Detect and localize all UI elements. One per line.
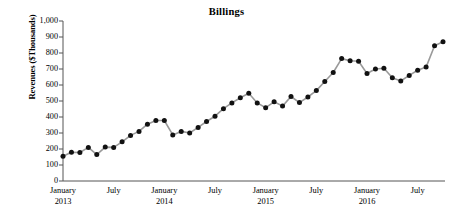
data-point (398, 79, 403, 84)
data-point (381, 66, 386, 71)
data-point (213, 114, 218, 119)
x-axis-tick-label: July (388, 186, 448, 197)
x-axis-tick-year: 2015 (236, 197, 296, 208)
billings-line (63, 42, 443, 156)
data-point (187, 131, 192, 136)
data-point (289, 94, 294, 99)
data-point (390, 75, 395, 80)
data-point (153, 118, 158, 123)
data-point (246, 91, 251, 96)
data-point (61, 154, 66, 159)
data-point (120, 139, 125, 144)
x-axis-tick-year: 2013 (33, 197, 93, 208)
data-point (204, 119, 209, 124)
data-point (69, 150, 74, 155)
data-point (103, 145, 108, 150)
data-point (424, 65, 429, 70)
data-point (229, 100, 234, 105)
data-point (196, 125, 201, 130)
data-point (272, 99, 277, 104)
data-point (221, 106, 226, 111)
data-point (179, 129, 184, 134)
data-point (145, 122, 150, 127)
series-line-billings (63, 42, 443, 156)
data-point (263, 105, 268, 110)
data-point (415, 68, 420, 73)
data-point (331, 70, 336, 75)
data-point (238, 95, 243, 100)
data-point (365, 71, 370, 76)
data-point (348, 58, 353, 63)
data-point (356, 59, 361, 64)
data-point (280, 104, 285, 109)
data-point (86, 145, 91, 150)
data-point (407, 73, 412, 78)
data-point (322, 79, 327, 84)
data-point (162, 118, 167, 123)
data-point (111, 145, 116, 150)
data-point (441, 39, 446, 44)
data-point (170, 132, 175, 137)
axis-lines (63, 21, 445, 181)
data-point (314, 88, 319, 93)
data-point (137, 129, 142, 134)
data-point (297, 100, 302, 105)
data-point (77, 150, 82, 155)
data-point (432, 43, 437, 48)
data-point (94, 152, 99, 157)
x-axis-tick-month: July (388, 186, 448, 197)
data-point (128, 133, 133, 138)
x-axis-tick-year: 2014 (134, 197, 194, 208)
chart-screenshot: Billings Revenues ($Thousands) 1,0009008… (0, 0, 453, 224)
data-point (373, 67, 378, 72)
data-point (255, 100, 260, 105)
data-point (339, 56, 344, 61)
data-point (305, 95, 310, 100)
x-axis-tick-year: 2016 (337, 197, 397, 208)
